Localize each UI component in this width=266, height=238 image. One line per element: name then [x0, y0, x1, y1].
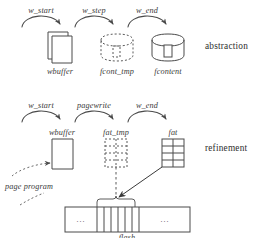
label-transition-w-start-abstraction: w_start [28, 7, 54, 15]
shape-fat [162, 139, 184, 167]
diagram-vector-layer [0, 0, 266, 238]
arc-pagewrite-refinement [75, 111, 113, 122]
shape-fcontent [152, 34, 184, 61]
arc-w-step-abstraction [75, 16, 113, 27]
label-transition-pagewrite-refinement: pagewrite [77, 102, 111, 110]
link-fat-to-flash [119, 167, 162, 197]
tier-label-refinement: refinement [205, 144, 247, 153]
shape-wbuffer-refinement [52, 139, 73, 169]
flash-abstraction-refinement-diagram: w_start w_step w_end wbuffer fcont_tmp f… [0, 0, 266, 238]
arc-w-end-abstraction [128, 16, 166, 27]
shape-fat-tmp [105, 139, 127, 167]
shape-fcont-tmp [101, 34, 133, 61]
shape-wbuffer-abstraction [48, 32, 72, 63]
label-state-fat-tmp: fat_tmp [103, 129, 129, 137]
abstraction-transition-arcs [22, 16, 166, 27]
label-state-wbuffer-refinement: wbuffer [49, 129, 75, 137]
label-transition-w-step-abstraction: w_step [82, 7, 106, 15]
label-transition-w-start-refinement: w_start [28, 102, 54, 110]
arc-w-start-abstraction [22, 16, 60, 27]
label-transition-w-end-abstraction: w_end [136, 7, 158, 15]
label-state-fat: fat [168, 129, 177, 137]
label-state-fcont-tmp: fcont_tmp [100, 68, 134, 76]
flash-cell-left-ellipsis: ... [77, 216, 86, 224]
label-transition-w-end-refinement: w_end [136, 102, 158, 110]
label-state-fcontent: fcontent [154, 68, 182, 76]
label-state-wbuffer-abstraction: wbuffer [47, 68, 73, 76]
refinement-transition-arcs [22, 111, 166, 122]
flash-cell-right-ellipsis: ... [161, 216, 170, 224]
arc-w-start-refinement [22, 111, 60, 122]
tier-label-abstraction: abstraction [205, 42, 248, 51]
label-operation-page-program: page program [5, 183, 53, 191]
flash-page-brace [97, 196, 135, 207]
arc-w-end-refinement [128, 111, 166, 122]
label-storage-flash: flash [119, 234, 136, 238]
